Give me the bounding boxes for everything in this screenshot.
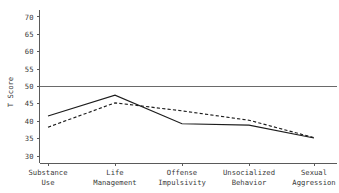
- x-category-label: Impulsivity: [158, 178, 206, 187]
- x-category-label: Use: [42, 178, 55, 187]
- x-category-label: Unsocialized: [223, 168, 275, 177]
- x-category-label: Offense: [167, 168, 197, 177]
- y-axis: 303540455055606570 T Score: [6, 10, 40, 163]
- chart-container: 303540455055606570 T Score SubstanceUseL…: [0, 0, 339, 193]
- x-category-label: Substance: [29, 168, 68, 177]
- x-category-label: Management: [93, 178, 136, 187]
- y-tick-label: 35: [25, 134, 34, 143]
- series-line-dashed: [48, 103, 314, 138]
- x-category-label: Sexual: [301, 168, 327, 177]
- series-line-solid: [48, 95, 314, 138]
- y-tick-label: 45: [25, 99, 34, 108]
- y-tick-label: 60: [25, 47, 34, 56]
- y-tick-label: 40: [25, 117, 34, 126]
- y-tick-label: 55: [25, 65, 34, 74]
- line-chart: 303540455055606570 T Score SubstanceUseL…: [0, 0, 339, 193]
- x-category-label: Behavior: [232, 178, 267, 187]
- y-tick-label: 30: [25, 152, 34, 161]
- y-tick-labels: 303540455055606570: [25, 13, 34, 161]
- y-tick-label: 50: [25, 82, 34, 91]
- x-category-labels: SubstanceUseLifeManagementOffenseImpulsi…: [29, 168, 336, 187]
- y-axis-title: T Score: [6, 77, 15, 107]
- x-category-label: Life: [106, 168, 123, 177]
- x-category-label: Aggression: [292, 178, 335, 187]
- y-tick-label: 70: [25, 13, 34, 22]
- x-axis: SubstanceUseLifeManagementOffenseImpulsi…: [29, 163, 337, 187]
- y-tick-label: 65: [25, 30, 34, 39]
